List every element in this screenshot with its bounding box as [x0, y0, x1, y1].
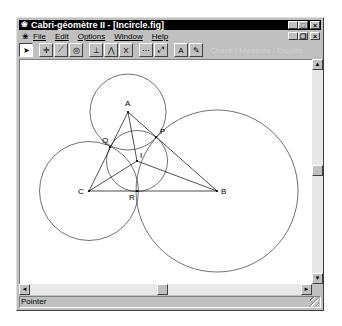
- horizontal-scroll-thumb[interactable]: [157, 284, 168, 295]
- point-A[interactable]: [127, 111, 129, 113]
- doc-restore-button[interactable]: ❐: [298, 32, 308, 40]
- toolbar-ghost-text: Check / Measure / Display: [210, 46, 303, 55]
- scroll-down-button[interactable]: ▼: [312, 273, 323, 284]
- circle-icon: ◎: [73, 46, 80, 55]
- menu-options[interactable]: Options: [78, 32, 106, 41]
- minimize-button[interactable]: _: [288, 21, 298, 29]
- measure-icon: ⤢: [158, 45, 164, 55]
- menu-bar: ❀ File Edit Options Window Help _ ❐ ×: [19, 31, 321, 41]
- horizontal-scrollbar[interactable]: ◄ ►: [19, 284, 312, 295]
- point-label-P: P: [160, 127, 165, 136]
- segment-BI[interactable]: [137, 161, 217, 191]
- point-label-C: C: [78, 187, 84, 196]
- vertical-scrollbar[interactable]: ▲ ▼: [312, 59, 323, 284]
- menu-file[interactable]: File: [33, 32, 46, 41]
- display-tool-button[interactable]: A: [174, 43, 188, 57]
- transform-tool-button[interactable]: ⋀: [104, 43, 118, 57]
- menu-help[interactable]: Help: [152, 32, 168, 41]
- cabri-app-icon[interactable]: ❀: [20, 21, 29, 30]
- draw-tool-button[interactable]: ✎: [189, 43, 203, 57]
- scroll-right-button[interactable]: ►: [301, 284, 312, 295]
- point-label-I: I: [140, 151, 142, 160]
- transform-icon: ⋀: [108, 46, 115, 55]
- menu-window[interactable]: Window: [114, 32, 142, 41]
- macro-tool-button[interactable]: X: [119, 43, 133, 57]
- curves-tool-button[interactable]: ◎: [69, 43, 83, 57]
- status-bar: Pointer: [19, 296, 321, 308]
- collinear-icon: ⋯: [142, 46, 150, 55]
- segment-AI[interactable]: [128, 112, 137, 161]
- pointer-icon: ➤: [23, 46, 30, 55]
- triangle-segments[interactable]: [89, 112, 217, 191]
- point-C[interactable]: [88, 190, 90, 192]
- scroll-up-button[interactable]: ▲: [312, 59, 323, 70]
- pointer-tool-button[interactable]: ➤: [19, 43, 33, 57]
- point-B[interactable]: [216, 190, 218, 192]
- status-text: Pointer: [21, 297, 46, 306]
- draw-icon: ✎: [193, 46, 200, 55]
- point-I[interactable]: [136, 160, 138, 162]
- document-icon[interactable]: ❀: [20, 32, 30, 41]
- menu-edit[interactable]: Edit: [55, 32, 69, 41]
- point-Q[interactable]: [109, 146, 111, 148]
- drawing-canvas[interactable]: ABCIPQR: [19, 59, 312, 284]
- lines-tool-button[interactable]: ⟋: [54, 43, 68, 57]
- macro-icon: X: [123, 46, 128, 55]
- app-window: ❀ Cabri-géomètre II - [Incircle.fig] _ □…: [16, 17, 324, 311]
- point-label-B: B: [221, 187, 226, 196]
- point-P[interactable]: [155, 136, 157, 138]
- point-label-Q: Q: [102, 136, 108, 145]
- maximize-button[interactable]: □: [298, 21, 308, 29]
- doc-close-button[interactable]: ×: [310, 32, 320, 40]
- point-R[interactable]: [136, 190, 138, 192]
- measure-tool-button[interactable]: ⤢: [154, 43, 168, 57]
- vertical-scroll-thumb[interactable]: [312, 165, 323, 176]
- scroll-left-button[interactable]: ◄: [19, 284, 30, 295]
- label-icon: A: [178, 46, 183, 55]
- doc-minimize-button[interactable]: _: [288, 32, 298, 40]
- points-tool-button[interactable]: ✛: [39, 43, 53, 57]
- perpendicular-icon: ⊥: [93, 46, 100, 55]
- scrollbar-corner: [312, 284, 323, 295]
- window-title: Cabri-géomètre II - [Incircle.fig]: [31, 20, 288, 30]
- construct-tool-button[interactable]: ⊥: [89, 43, 103, 57]
- point-label-A: A: [125, 99, 131, 108]
- close-button[interactable]: ×: [310, 21, 320, 29]
- resize-grip-icon[interactable]: [310, 297, 319, 306]
- geometry-figure: ABCIPQR: [20, 60, 312, 284]
- check-property-tool-button[interactable]: ⋯: [139, 43, 153, 57]
- title-bar[interactable]: ❀ Cabri-géomètre II - [Incircle.fig] _ □…: [19, 20, 321, 30]
- point-label-R: R: [129, 193, 135, 202]
- point-icon: ✛: [43, 46, 50, 55]
- toolbar: ➤ ✛ ⟋ ◎ ⊥ ⋀ X ⋯ ⤢ A ✎ Check / Measure / …: [19, 42, 321, 58]
- line-icon: ⟋: [58, 45, 64, 55]
